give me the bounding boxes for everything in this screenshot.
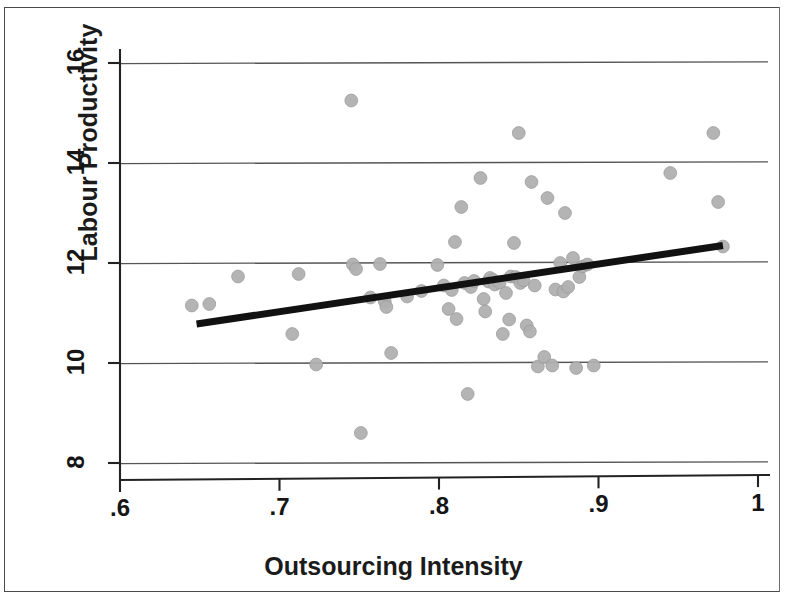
data-point (546, 359, 559, 372)
y-tick-label-16: 16 (62, 32, 90, 92)
data-point (350, 263, 363, 276)
data-point (185, 299, 198, 312)
data-point (541, 192, 554, 205)
data-point (570, 362, 583, 375)
tick-marks-group (108, 63, 758, 492)
data-point (512, 127, 525, 140)
data-point (496, 328, 509, 341)
data-point (528, 279, 541, 292)
x-tick-label-.6: .6 (90, 494, 150, 522)
data-point (461, 388, 474, 401)
data-point (286, 328, 299, 341)
data-point (712, 196, 725, 209)
data-point (477, 293, 490, 306)
y-tick-label-8: 8 (62, 432, 90, 492)
regression-line (197, 246, 723, 325)
data-point (525, 176, 538, 189)
gridline-y-10 (119, 362, 768, 364)
data-point (524, 325, 537, 338)
data-point (380, 301, 393, 314)
data-point (455, 201, 468, 214)
data-point (292, 268, 305, 281)
data-point (232, 270, 245, 283)
data-point (587, 359, 600, 372)
x-tick-label-.7: .7 (250, 493, 310, 521)
data-point (503, 313, 516, 326)
data-point (707, 127, 720, 140)
data-point (385, 347, 398, 360)
data-point (508, 237, 521, 250)
data-point (431, 259, 444, 272)
gridline-y-8 (119, 462, 768, 464)
data-point (310, 358, 323, 371)
data-point (374, 258, 387, 271)
regression-line-group (197, 246, 723, 325)
data-point (450, 313, 463, 326)
gridline-y-16 (119, 62, 768, 64)
y-tick-label-12: 12 (62, 232, 90, 292)
x-tick-label-.8: .8 (409, 492, 469, 520)
data-point (449, 236, 462, 249)
gridline-y-14 (119, 162, 768, 164)
data-point (474, 172, 487, 185)
figure-container: Labour Productivity Outsourcing Intensit… (0, 0, 787, 603)
data-points-group (185, 94, 729, 439)
data-point (559, 207, 572, 220)
y-tick-label-10: 10 (62, 332, 90, 392)
data-point (479, 305, 492, 318)
x-axis-line (119, 475, 770, 480)
x-axis-label: Outsourcing Intensity (0, 552, 787, 581)
data-point (345, 94, 358, 107)
data-point (203, 298, 216, 311)
x-tick-label-1: 1 (728, 489, 787, 517)
data-point (562, 281, 575, 294)
y-tick-label-14: 14 (62, 132, 90, 192)
data-point (500, 287, 513, 300)
x-tick-label-.9: .9 (569, 490, 629, 518)
data-point (664, 167, 677, 180)
data-point (354, 427, 367, 440)
axes-group (119, 49, 770, 481)
